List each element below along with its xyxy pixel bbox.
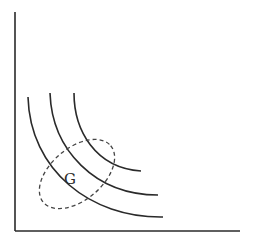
diagram-canvas: G [0,0,257,245]
indifference-curve-outer [28,97,163,217]
dashed-region-g [27,126,128,222]
indifference-curve-inner [74,93,141,171]
indifference-curve-diagram: G [0,0,257,245]
region-label-g: G [64,170,76,188]
